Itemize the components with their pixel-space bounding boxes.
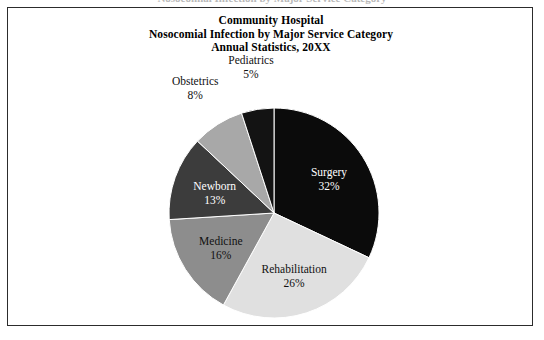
pie-chart: Surgery32%Rehabilitation26%Medicine16%Ne… <box>8 8 534 327</box>
pie-label-surgery: Surgery <box>311 166 347 179</box>
pie-value-rehabilitation: 26% <box>284 277 306 289</box>
pie-label-obstetrics: Obstetrics <box>172 75 219 87</box>
pie-value-obstetrics: 8% <box>188 89 204 101</box>
pie-value-newborn: 13% <box>204 194 226 206</box>
pie-outside-labels: Obstetrics8%Pediatrics5% <box>172 54 274 101</box>
pie-label-pediatrics: Pediatrics <box>228 54 274 66</box>
pie-value-surgery: 32% <box>318 180 340 192</box>
bleed-text: Nosocomial Infection by Major Service Ca… <box>0 0 544 4</box>
pie-slices <box>169 108 379 318</box>
pie-label-newborn: Newborn <box>193 180 236 192</box>
pie-label-medicine: Medicine <box>199 235 242 247</box>
pie-chart-svg: Surgery32%Rehabilitation26%Medicine16%Ne… <box>8 8 534 327</box>
page-bleed-top-text: Nosocomial Infection by Major Service Ca… <box>0 0 544 6</box>
pie-value-pediatrics: 5% <box>243 68 259 80</box>
chart-frame: Community Hospital Nosocomial Infection … <box>7 7 533 326</box>
pie-value-medicine: 16% <box>210 249 232 261</box>
pie-label-rehabilitation: Rehabilitation <box>262 263 327 275</box>
